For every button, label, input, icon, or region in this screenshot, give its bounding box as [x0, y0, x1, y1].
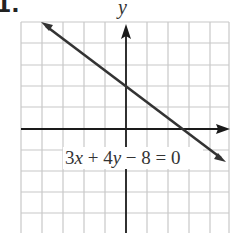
x-axis-arrow-icon	[216, 124, 230, 134]
eq-term-4y: 4y	[103, 147, 121, 168]
eq-const: 8	[141, 147, 151, 168]
grid	[21, 22, 229, 233]
coordinate-plot	[0, 0, 235, 233]
eq-equals: =	[156, 147, 167, 168]
eq-minus: −	[126, 147, 137, 168]
eq-rhs: 0	[171, 147, 181, 168]
y-axis-label: y	[118, 0, 127, 19]
eq-term-3x: 3x	[65, 147, 83, 168]
eq-plus: +	[88, 147, 99, 168]
equation-label: 3x + 4y − 8 = 0	[63, 147, 203, 169]
